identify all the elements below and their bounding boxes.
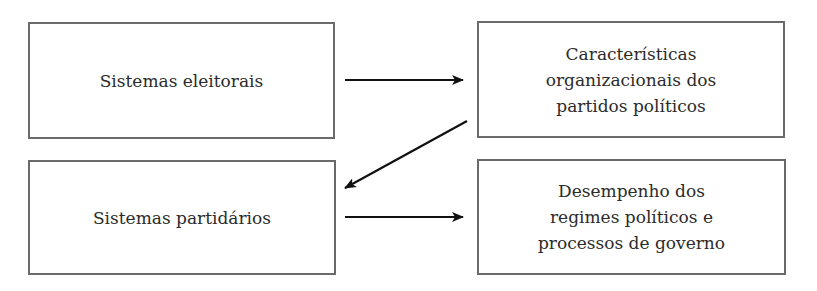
arrow-caracteristicas-to-partidarios bbox=[345, 121, 467, 188]
arrows-layer bbox=[0, 0, 817, 291]
